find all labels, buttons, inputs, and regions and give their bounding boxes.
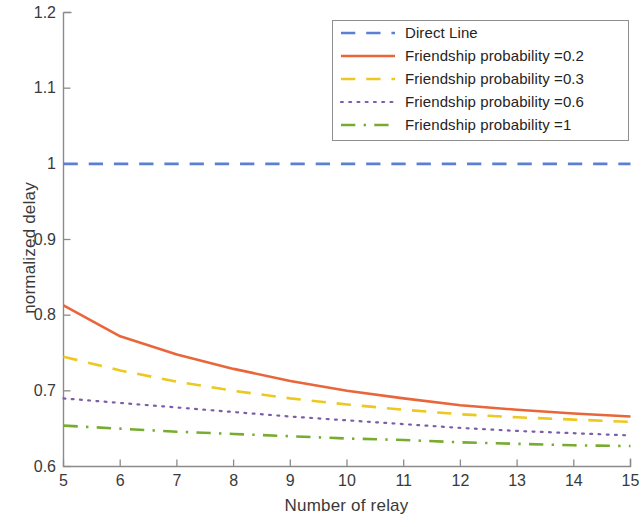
legend-line-swatch	[340, 95, 396, 109]
x-tick-label: 9	[286, 472, 295, 490]
legend-line-swatch	[340, 49, 396, 63]
x-tick-label: 5	[59, 472, 68, 490]
chart-figure: normalized delay Number of relay 0.60.70…	[0, 0, 644, 527]
series-line-4	[64, 426, 631, 446]
x-tick-label: 10	[338, 472, 356, 490]
x-tick-label: 8	[229, 472, 238, 490]
legend-item-label: Friendship probability =0.2	[405, 47, 584, 64]
y-tick-label: 1.2	[8, 4, 56, 22]
x-tick-label: 13	[508, 472, 526, 490]
legend-line-swatch	[340, 26, 396, 40]
legend-item: Direct Line	[333, 21, 628, 44]
x-axis-label: Number of relay	[63, 496, 630, 516]
y-tick-label: 1	[8, 155, 56, 173]
x-tick-label: 12	[451, 472, 469, 490]
chart-legend: Direct LineFriendship probability =0.2Fr…	[332, 20, 629, 141]
legend-item-label: Direct Line	[405, 24, 478, 41]
x-tick-label: 6	[116, 472, 125, 490]
x-tick-label: 14	[565, 472, 583, 490]
legend-item-label: Friendship probability =0.3	[405, 70, 584, 87]
legend-item: Friendship probability =0.3	[333, 67, 628, 90]
legend-item: Friendship probability =0.2	[333, 44, 628, 67]
legend-item: Friendship probability =0.6	[333, 90, 628, 113]
x-tick-label: 7	[172, 472, 181, 490]
y-tick-label: 0.6	[8, 458, 56, 476]
legend-line-swatch	[340, 72, 396, 86]
legend-item-label: Friendship probability =0.6	[405, 93, 584, 110]
y-tick-label: 0.8	[8, 306, 56, 324]
x-tick-label: 11	[395, 472, 412, 490]
legend-item-label: Friendship probability =1	[405, 116, 571, 133]
y-tick-label: 0.7	[8, 382, 56, 400]
x-tick-label: 15	[622, 472, 640, 490]
series-line-1	[64, 305, 631, 416]
series-group	[64, 164, 631, 446]
y-tick-label: 0.9	[8, 231, 56, 249]
y-tick-label: 1.1	[8, 79, 56, 97]
legend-item: Friendship probability =1	[333, 113, 628, 136]
legend-line-swatch	[340, 118, 396, 132]
